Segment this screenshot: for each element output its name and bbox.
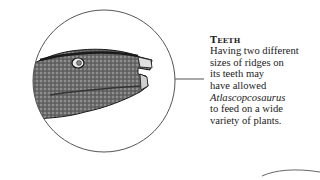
caption-block: Teeth Having two different sizes of ridg… xyxy=(210,34,320,126)
caption-line: sizes of ridges on xyxy=(210,57,320,69)
caption-body: Having two different sizes of ridges on … xyxy=(210,45,320,126)
next-circle-arc xyxy=(262,170,320,176)
species-name: Atlascopcosaurus xyxy=(210,92,285,103)
caption-line: have allowed xyxy=(210,80,320,92)
head-drawing xyxy=(20,49,152,120)
caption-line: variety of plants. xyxy=(210,115,320,127)
caption-heading: Teeth xyxy=(210,34,320,45)
caption-line: Having two different xyxy=(210,45,320,57)
caption-line: its teeth may xyxy=(210,68,320,80)
caption-line: to feed on a wide xyxy=(210,103,320,115)
